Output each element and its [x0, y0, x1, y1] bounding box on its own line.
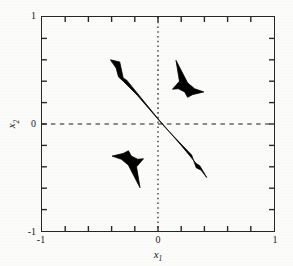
- x-axis-label: x1: [154, 248, 163, 263]
- x-axis-label-subscript: 1: [159, 254, 163, 263]
- y-axis-label: x2: [5, 120, 20, 129]
- plot-svg: [42, 17, 274, 231]
- reference-line-group: [42, 17, 274, 231]
- ytick-label-min: -1: [24, 227, 36, 237]
- upper-right-region: [173, 60, 204, 97]
- y-axis-label-subscript: 2: [12, 120, 21, 124]
- ytick-label-zero: 0: [24, 119, 36, 129]
- ytick-label-max: 1: [24, 11, 36, 21]
- lower-left-region: [112, 151, 143, 188]
- xtick-label-min: -1: [37, 235, 45, 245]
- figure-canvas: -1 0 1 -1 0 1 x1 x2: [0, 0, 293, 266]
- y-axis-label-main: x: [5, 123, 17, 128]
- xtick-label-max: 1: [273, 235, 278, 245]
- plot-frame: [41, 16, 275, 232]
- xtick-label-zero: 0: [156, 235, 161, 245]
